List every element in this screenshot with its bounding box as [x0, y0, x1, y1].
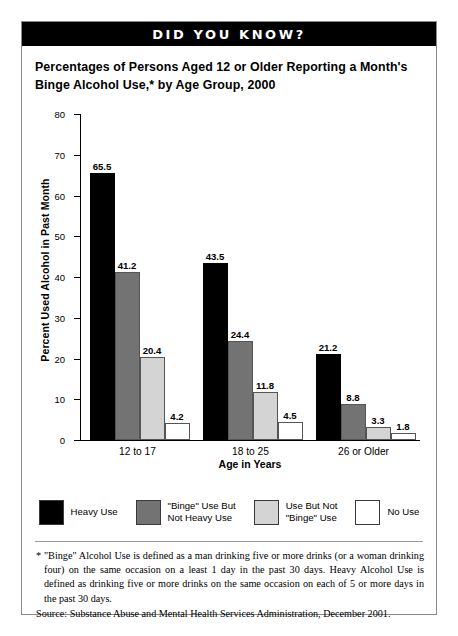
y-tick: 10 — [74, 399, 80, 400]
bar-group: 21.28.83.31.8 — [316, 114, 416, 440]
bar-value-label: 3.3 — [371, 415, 384, 426]
bar: 41.2 — [115, 272, 140, 440]
chart-axes: 01020304050607080 12 to 1765.541.220.44.… — [80, 114, 420, 454]
legend-item: Use But Not "Binge" Use — [254, 500, 338, 525]
chart-title: Percentages of Persons Aged 12 or Older … — [35, 58, 425, 94]
banner-title: DID YOU KNOW? — [152, 27, 306, 42]
x-tick-label: 26 or Older — [307, 446, 420, 457]
bar: 4.5 — [278, 422, 303, 440]
bar-value-label: 1.8 — [396, 421, 409, 432]
y-tick-label: 50 — [54, 231, 65, 242]
legend-label: Use But Not "Binge" Use — [286, 500, 338, 524]
legend-swatch — [254, 500, 279, 525]
bar-value-label: 41.2 — [118, 260, 137, 271]
bar: 65.5 — [90, 173, 115, 440]
y-tick-label: 0 — [60, 435, 65, 446]
legend-item: Heavy Use — [39, 500, 118, 525]
x-axis-line — [80, 440, 420, 441]
y-tick-label: 70 — [54, 149, 65, 160]
figure-page: DID YOU KNOW? Percentages of Persons Age… — [0, 0, 458, 636]
footnote-text: * "Binge" Alcohol Use is defined as a ma… — [36, 549, 424, 606]
legend-swatch — [136, 500, 161, 525]
y-tick-label: 20 — [54, 353, 65, 364]
bar: 21.2 — [316, 354, 341, 440]
legend-label: "Binge" Use But Not Heavy Use — [168, 500, 236, 524]
bar: 11.8 — [253, 392, 278, 440]
bar-value-label: 4.2 — [170, 411, 183, 422]
bar-group: 43.524.411.84.5 — [203, 114, 303, 440]
y-tick-label: 30 — [54, 312, 65, 323]
bar-value-label: 21.2 — [319, 342, 338, 353]
y-tick: 0 — [74, 440, 80, 441]
y-tick-label: 60 — [54, 190, 65, 201]
bar-value-label: 11.8 — [256, 380, 274, 391]
legend-swatch — [39, 500, 64, 525]
legend-item: "Binge" Use But Not Heavy Use — [136, 500, 236, 525]
y-tick: 80 — [74, 114, 80, 115]
source-text: Source: Substance Abuse and Mental Healt… — [36, 607, 424, 621]
y-tick-label: 10 — [54, 394, 65, 405]
y-tick-label: 80 — [54, 109, 65, 120]
y-tick: 20 — [74, 359, 80, 360]
footnote-divider — [35, 541, 423, 542]
x-tick-label: 18 to 25 — [194, 446, 307, 457]
y-axis-label: Percent Used Alcohol in Past Month — [39, 155, 51, 385]
legend-item: No Use — [355, 500, 419, 525]
bar-value-label: 4.5 — [283, 410, 296, 421]
bar: 20.4 — [140, 357, 165, 440]
bar-group: 65.541.220.44.2 — [90, 114, 190, 440]
x-tick-label: 12 to 17 — [81, 446, 194, 457]
legend-label: No Use — [387, 506, 419, 518]
bar: 8.8 — [341, 404, 366, 440]
bar-value-label: 43.5 — [206, 251, 225, 262]
bar-value-label: 24.4 — [231, 329, 250, 340]
chart-legend: Heavy Use"Binge" Use But Not Heavy UseUs… — [22, 488, 436, 536]
y-tick: 70 — [74, 155, 80, 156]
legend-label: Heavy Use — [71, 506, 118, 518]
figure-card: DID YOU KNOW? Percentages of Persons Age… — [21, 21, 437, 615]
bar: 24.4 — [228, 341, 253, 440]
y-tick: 30 — [74, 318, 80, 319]
chart-plot-area: Percent Used Alcohol in Past Month 01020… — [22, 104, 436, 489]
y-tick: 60 — [74, 196, 80, 197]
bar-value-label: 65.5 — [93, 161, 112, 172]
x-axis-label: Age in Years — [80, 458, 420, 470]
bar-groups: 12 to 1765.541.220.44.218 to 2543.524.41… — [81, 114, 420, 440]
bar: 43.5 — [203, 263, 228, 440]
y-tick-label: 40 — [54, 272, 65, 283]
legend-swatch — [355, 500, 380, 525]
bar: 3.3 — [366, 427, 391, 440]
bar-value-label: 20.4 — [143, 345, 162, 356]
y-tick: 40 — [74, 277, 80, 278]
did-you-know-banner: DID YOU KNOW? — [22, 22, 436, 46]
bar-value-label: 8.8 — [346, 392, 359, 403]
bar: 4.2 — [165, 423, 190, 440]
bar: 1.8 — [391, 433, 416, 440]
y-tick: 50 — [74, 236, 80, 237]
